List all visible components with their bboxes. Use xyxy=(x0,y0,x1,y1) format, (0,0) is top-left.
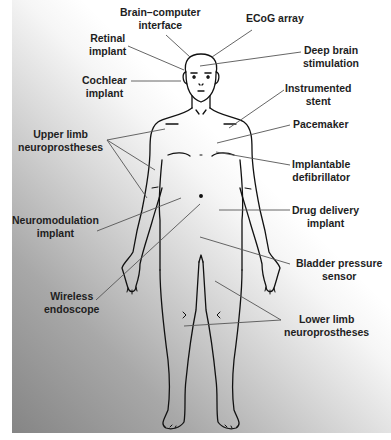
label-pacemaker: Pacemaker xyxy=(293,118,348,131)
label-line: implant xyxy=(82,87,127,100)
leader-lower-limb-2 xyxy=(184,320,281,326)
leader-retinal-implant xyxy=(128,46,184,70)
label-line: Implantable xyxy=(292,158,350,171)
leader-brain-computer-interface xyxy=(166,35,190,57)
label-cochlear-implant: Cochlear implant xyxy=(82,74,127,100)
leader-upper-limb-3 xyxy=(107,140,147,198)
label-line: sensor xyxy=(296,270,382,283)
label-drug-delivery-implant: Drug delivery implant xyxy=(292,204,359,230)
leader-bladder-pressure-sensor xyxy=(200,237,290,264)
label-line: stent xyxy=(285,95,352,108)
label-line: neuroprostheses xyxy=(284,326,369,339)
label-line: neuroprostheses xyxy=(18,141,103,154)
label-line: implant xyxy=(89,45,126,58)
label-line: Pacemaker xyxy=(293,118,348,131)
label-line: interface xyxy=(120,19,201,32)
label-line: defibrillator xyxy=(292,171,350,184)
label-line: Drug delivery xyxy=(292,204,359,217)
leader-upper-limb-1 xyxy=(107,129,165,140)
label-line: implant xyxy=(12,227,99,240)
leader-lower-limb-1 xyxy=(215,281,281,320)
label-line: ECoG array xyxy=(246,12,304,25)
leader-neuromodulation-implant xyxy=(97,198,181,231)
label-lower-limb-neuroprostheses: Lower limb neuroprostheses xyxy=(284,313,369,339)
label-bladder-pressure-sensor: Bladder pressure sensor xyxy=(296,257,382,283)
label-upper-limb-neuroprostheses: Upper limb neuroprostheses xyxy=(18,128,103,154)
leader-wireless-endoscope xyxy=(96,204,200,300)
leader-pacemaker xyxy=(217,125,290,143)
leader-instrumented-stent xyxy=(229,90,284,128)
label-line: Upper limb xyxy=(18,128,103,141)
label-line: Bladder pressure xyxy=(296,257,382,270)
label-ecog-array: ECoG array xyxy=(246,12,304,25)
leader-ecog-array xyxy=(212,30,252,57)
label-line: Instrumented xyxy=(285,82,352,95)
label-line: Cochlear xyxy=(82,74,127,87)
leader-deep-brain-stimulation xyxy=(200,52,301,66)
label-retinal-implant: Retinal implant xyxy=(89,32,126,58)
label-neuromodulation-implant: Neuromodulation implant xyxy=(12,214,99,240)
leader-upper-limb-2 xyxy=(107,140,155,170)
label-line: stimulation xyxy=(303,57,359,70)
label-line: Deep brain xyxy=(303,44,359,57)
label-line: Wireless xyxy=(44,290,99,303)
label-line: Brain–computer xyxy=(120,6,201,19)
label-line: Neuromodulation xyxy=(12,214,99,227)
label-brain-computer-interface: Brain–computer interface xyxy=(120,6,201,32)
label-deep-brain-stimulation: Deep brain stimulation xyxy=(303,44,359,70)
label-instrumented-stent: Instrumented stent xyxy=(285,82,352,108)
label-line: implant xyxy=(292,217,359,230)
body-outline xyxy=(122,54,280,429)
label-line: Retinal xyxy=(89,32,126,45)
label-line: Lower limb xyxy=(284,313,369,326)
label-wireless-endoscope: Wireless endoscope xyxy=(44,290,99,316)
label-implantable-defibrillator: Implantable defibrillator xyxy=(292,158,350,184)
label-line: endoscope xyxy=(44,303,99,316)
